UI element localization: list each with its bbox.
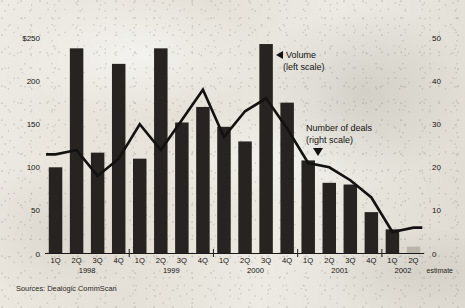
x-tick-2q-1998: 2Q bbox=[72, 256, 82, 265]
bar-4q-2000 bbox=[280, 103, 293, 254]
left-axis-tick-0: 0 bbox=[36, 250, 41, 259]
bar-1q-1999 bbox=[133, 159, 146, 254]
right-axis-tick-0: 0 bbox=[432, 250, 437, 259]
annotation-deals-line1: Number of deals bbox=[306, 123, 373, 133]
bar-4q-1999 bbox=[196, 107, 209, 254]
annotation-deals-line2: (right scale) bbox=[306, 135, 353, 145]
bar-3q-1999 bbox=[175, 122, 188, 253]
bar-1q-2000 bbox=[217, 127, 230, 254]
x-year-2002: 2002 bbox=[394, 266, 411, 275]
right-axis-tick-50: 50 bbox=[432, 34, 441, 43]
left-axis-tick-50: 50 bbox=[31, 206, 40, 215]
bar-3q-1998 bbox=[91, 153, 104, 254]
right-axis-tick-20: 20 bbox=[432, 163, 441, 172]
bar-1q-1998 bbox=[49, 167, 62, 253]
annotation-volume: Volume (left scale) bbox=[276, 50, 325, 72]
x-tick-2q-2001: 2Q bbox=[324, 256, 334, 265]
volume-and-deals-chart: $250200150100500 50403020100 1Q2Q3Q4Q1Q2… bbox=[0, 0, 465, 308]
x-tick-4q-2000: 4Q bbox=[282, 256, 292, 265]
left-axis: $250200150100500 bbox=[22, 34, 40, 259]
x-tick-1q-1999: 1Q bbox=[135, 256, 145, 265]
right-axis-tick-40: 40 bbox=[432, 77, 441, 86]
right-axis-tick-10: 10 bbox=[432, 206, 441, 215]
bar-2q-2002 bbox=[407, 247, 420, 254]
left-triangle-icon bbox=[276, 51, 283, 59]
x-tick-1q-2001: 1Q bbox=[303, 256, 313, 265]
x-tick-3q-2000: 3Q bbox=[261, 256, 271, 265]
x-tick-4q-1998: 4Q bbox=[114, 256, 124, 265]
x-tick-2q-2002: 2Q bbox=[408, 256, 418, 265]
x-year-2000: 2000 bbox=[247, 266, 264, 275]
x-tick-2q-2000: 2Q bbox=[240, 256, 250, 265]
x-tick-3q-2001: 3Q bbox=[345, 256, 355, 265]
bar-3q-2001 bbox=[344, 185, 357, 254]
x-tick-2q-1999: 2Q bbox=[156, 256, 166, 265]
down-triangle-icon bbox=[313, 148, 323, 156]
bar-2q-2000 bbox=[238, 141, 251, 253]
right-axis-tick-30: 30 bbox=[432, 120, 441, 129]
bar-2q-2001 bbox=[323, 183, 336, 254]
x-tick-1q-2002: 1Q bbox=[387, 256, 397, 265]
x-tick-3q-1999: 3Q bbox=[177, 256, 187, 265]
bar-4q-2001 bbox=[365, 212, 378, 253]
x-tick-3q-1998: 3Q bbox=[93, 256, 103, 265]
annotation-number-of-deals: Number of deals (right scale) bbox=[306, 123, 373, 156]
annotation-volume-line2: (left scale) bbox=[283, 62, 325, 72]
x-year-2001: 2001 bbox=[331, 266, 348, 275]
left-axis-tick-200: 200 bbox=[27, 77, 41, 86]
estimate-note: estimate bbox=[427, 267, 454, 274]
bar-1q-2001 bbox=[301, 160, 314, 253]
x-tick-1q-2000: 1Q bbox=[219, 256, 229, 265]
source-note: Sources: Dealogic CommScan bbox=[16, 284, 117, 293]
x-tick-1q-1998: 1Q bbox=[50, 256, 60, 265]
x-tick-4q-1999: 4Q bbox=[198, 256, 208, 265]
left-axis-tick-100: 100 bbox=[27, 163, 41, 172]
right-axis: 50403020100 bbox=[432, 34, 441, 259]
x-year-1999: 1999 bbox=[163, 266, 180, 275]
x-year-1998: 1998 bbox=[79, 266, 96, 275]
x-tick-4q-2001: 4Q bbox=[366, 256, 376, 265]
bar-3q-2000 bbox=[259, 44, 272, 253]
left-axis-tick-250: $250 bbox=[22, 34, 40, 43]
annotation-volume-line1: Volume bbox=[286, 50, 316, 60]
bar-series-volume bbox=[49, 44, 420, 253]
left-axis-tick-150: 150 bbox=[27, 120, 41, 129]
